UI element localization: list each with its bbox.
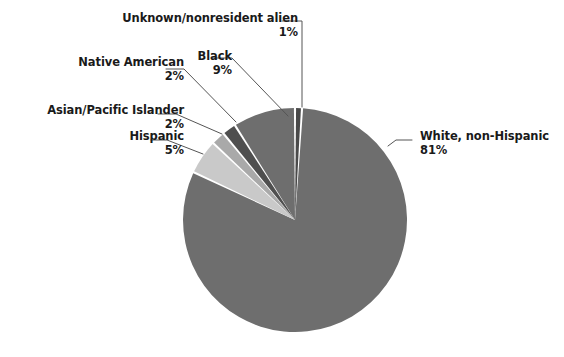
pie-chart-figure (0, 0, 564, 357)
leader-line-white (388, 140, 412, 146)
slice-label-name: Asian/Pacific Islander (8, 104, 184, 118)
slice-label-asian-pacific-islander: Asian/Pacific Islander 2% (8, 104, 184, 131)
slice-label-value: 1% (104, 26, 298, 40)
slice-label-value: 5% (40, 144, 184, 158)
slice-label-native-american: Native American 2% (22, 56, 184, 83)
pie-slices (183, 108, 407, 332)
slice-label-name: Unknown/nonresident alien (104, 12, 298, 26)
pie-chart-page: Unknown/nonresident alien 1% Black 9% Na… (0, 0, 564, 357)
slice-label-white-non-hispanic: White, non-Hispanic 81% (420, 130, 560, 157)
slice-label-name: Hispanic (40, 130, 184, 144)
slice-label-name: White, non-Hispanic (420, 130, 560, 144)
slice-label-value: 2% (22, 70, 184, 84)
slice-label-unknown-nonresident-alien: Unknown/nonresident alien 1% (104, 12, 298, 39)
slice-label-name: Native American (22, 56, 184, 70)
slice-label-value: 81% (420, 144, 560, 158)
slice-label-hispanic: Hispanic 5% (40, 130, 184, 157)
